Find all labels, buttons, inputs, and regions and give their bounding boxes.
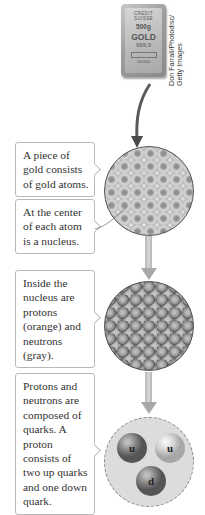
quark-label: d: [148, 475, 154, 487]
bar-brand-line2: SUISSE: [125, 16, 162, 21]
bar-purity: 999,9: [125, 42, 162, 49]
quark-label: u: [167, 442, 173, 454]
callout-atoms-text: A piece of gold consists of gold atoms.: [23, 149, 89, 190]
arrow-shaft: [145, 236, 152, 270]
gold-bar-face: CREDIT SUISSE 500g GOLD 999,9 100300: [125, 8, 162, 73]
proton-circle: u u d: [104, 417, 194, 507]
up-quark: u: [117, 433, 147, 463]
bar-weight: 500g: [125, 23, 162, 31]
quark-label: u: [129, 442, 135, 454]
bar-slot: [131, 52, 157, 58]
callout-pointer: [88, 444, 101, 457]
callout-atoms: A piece of gold consists of gold atoms.: [15, 142, 95, 197]
down-arrow-icon: [141, 402, 157, 414]
photo-credit: Don Farrall/Photodisc/ Getty Images: [168, 6, 182, 86]
down-arrow-icon: [141, 268, 157, 280]
nucleus-circle: [104, 281, 194, 371]
gold-bar-photo: CREDIT SUISSE 500g GOLD 999,9 100300: [121, 4, 166, 77]
leader-line: [93, 205, 131, 233]
callout-pointer: [88, 311, 101, 324]
callout-pointer: [88, 163, 101, 176]
down-quark: d: [136, 466, 166, 496]
up-quark: u: [155, 433, 185, 463]
arrow-shaft: [145, 372, 152, 404]
bar-metal: GOLD: [125, 33, 162, 42]
callout-nucleons-text: Inside the nucleus are protons (orange) …: [23, 277, 81, 361]
callout-nucleus-center-text: At the center of each atom is a nucleus.: [23, 206, 82, 247]
callout-nucleons: Inside the nucleus are protons (orange) …: [15, 270, 95, 368]
bar-serial: 100300: [125, 59, 162, 64]
curved-arrow-icon: [120, 82, 160, 150]
callout-nucleus-center: At the center of each atom is a nucleus.: [15, 199, 95, 254]
callout-quarks-text: Protons and neutrons are composed of qua…: [23, 380, 88, 507]
callout-quarks: Protons and neutrons are composed of qua…: [15, 373, 95, 515]
